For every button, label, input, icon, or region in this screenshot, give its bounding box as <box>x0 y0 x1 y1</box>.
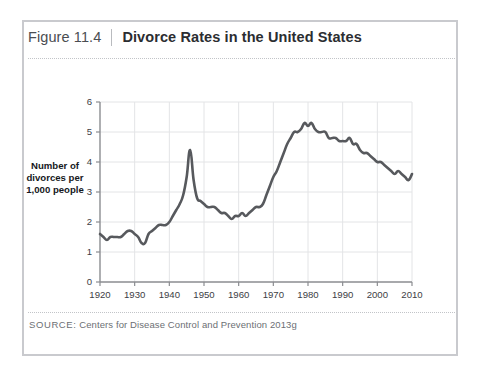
y-tick-label: 1 <box>78 246 92 257</box>
source-label: SOURCE: <box>29 319 76 330</box>
source-text: Centers for Disease Control and Preventi… <box>79 319 297 330</box>
x-tick-label: 2010 <box>392 289 432 300</box>
figure-header: Figure 11.4 Divorce Rates in the United … <box>28 20 455 54</box>
y-tick-label: 3 <box>78 186 92 197</box>
figure-number: Figure 11.4 <box>28 29 101 45</box>
y-tick-label: 4 <box>78 156 92 167</box>
header-divider <box>28 58 455 60</box>
source-note: SOURCE: Centers for Disease Control and … <box>29 319 297 330</box>
source-divider <box>28 312 455 314</box>
y-tick-label: 6 <box>78 96 92 107</box>
y-tick-label: 5 <box>78 126 92 137</box>
y-axis-title: Number of divorces per 1,000 people <box>24 160 86 197</box>
figure-title-separator <box>111 29 112 46</box>
y-tick-label: 2 <box>78 216 92 227</box>
figure-title: Divorce Rates in the United States <box>122 29 362 45</box>
y-tick-label: 0 <box>78 276 92 287</box>
